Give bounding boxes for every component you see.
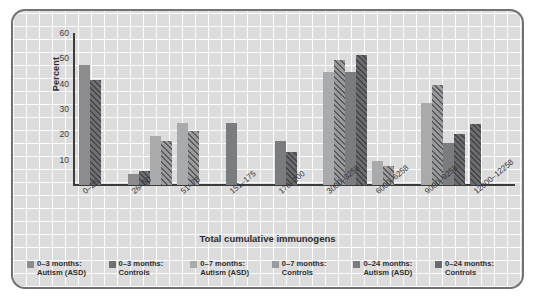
legend-item[interactable]: 0–7 months: Autism (ASD) (190, 259, 268, 278)
bar (421, 103, 432, 185)
legend-item[interactable]: 0–7 months: Controls (272, 259, 350, 278)
legend-swatch-icon (435, 261, 442, 268)
bar (177, 123, 188, 185)
bar (334, 60, 345, 185)
legend-label: 0–24 months: Autism (ASD) (363, 259, 412, 278)
bar (161, 141, 172, 185)
legend-item[interactable]: 0–3 months: Autism (ASD) (27, 259, 105, 278)
bar-group (128, 33, 172, 185)
y-tick-label: 10 (41, 155, 69, 165)
bar-group (470, 33, 481, 185)
bar (79, 65, 90, 185)
legend-swatch-icon (109, 261, 116, 268)
bar-group (421, 33, 465, 185)
legend-item[interactable]: 0–3 months: Controls (109, 259, 187, 278)
bar (470, 124, 481, 185)
legend-item[interactable]: 0–24 months: Controls (435, 259, 513, 278)
y-tick-label: 20 (41, 129, 69, 139)
bar-group (177, 33, 199, 185)
legend-swatch-icon (353, 261, 360, 268)
bar (432, 85, 443, 185)
chart-legend: 0–3 months: Autism (ASD)0–3 months: Cont… (27, 259, 513, 278)
y-tick-label: 40 (41, 79, 69, 89)
legend-swatch-icon (190, 261, 197, 268)
legend-label: 0–3 months: Autism (ASD) (37, 259, 86, 278)
bar-series-container (75, 33, 515, 185)
legend-label: 0–3 months: Controls (119, 259, 164, 278)
y-tick-label: 30 (41, 104, 69, 114)
legend-label: 0–24 months: Controls (445, 259, 494, 278)
bar (454, 134, 465, 185)
bar-group (275, 33, 297, 185)
bar (150, 136, 161, 185)
bar-group (79, 33, 101, 185)
plot-area: Percent 605040302010 0–2526–5051–75151–1… (13, 11, 522, 287)
x-axis-title: Total cumulative immunogens (13, 233, 522, 244)
bar (275, 141, 286, 185)
bar-group (323, 33, 367, 185)
legend-label: 0–7 months: Autism (ASD) (200, 259, 249, 278)
bar (323, 72, 334, 185)
bar (226, 123, 237, 185)
chart-figure: Percent 605040302010 0–2526–5051–75151–1… (11, 9, 524, 289)
bar-group (226, 33, 237, 185)
legend-label: 0–7 months: Controls (282, 259, 327, 278)
legend-swatch-icon (27, 261, 34, 268)
y-axis-ticks: 605040302010 (39, 11, 69, 287)
y-tick-label: 60 (41, 28, 69, 38)
y-tick-label: 50 (41, 53, 69, 63)
bar (90, 80, 101, 185)
legend-item[interactable]: 0–24 months: Autism (ASD) (353, 259, 431, 278)
bar-group (372, 33, 394, 185)
legend-swatch-icon (272, 261, 279, 268)
